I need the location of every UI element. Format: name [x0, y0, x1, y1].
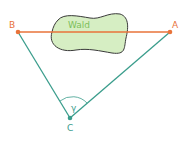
point-a	[168, 30, 173, 35]
label-b: B	[9, 20, 15, 30]
point-c	[68, 116, 73, 121]
triangle-diagram: B A C γ Wald	[0, 0, 191, 146]
label-c: C	[67, 123, 73, 133]
label-gamma: γ	[71, 103, 77, 113]
forest-label: Wald	[68, 20, 90, 30]
point-b	[16, 30, 21, 35]
label-a: A	[172, 20, 179, 30]
